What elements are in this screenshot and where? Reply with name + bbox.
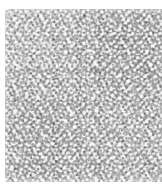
page-canvas: [0, 0, 162, 194]
texture-edge-fade-layer: [5, 9, 162, 182]
granular-texture-figure: [5, 9, 162, 182]
